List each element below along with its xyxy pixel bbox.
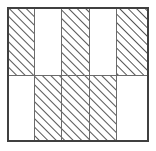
hatched-cell-r2c4 [89, 75, 116, 142]
hatched-cell-r2c3 [62, 75, 89, 142]
hatched-cell-r1c1 [7, 7, 34, 75]
grid-diagram-svg [0, 0, 156, 151]
hatched-cell-r2c2 [34, 75, 61, 142]
hatched-cell-r1c5 [117, 7, 149, 75]
hatched-grid-figure [0, 0, 156, 151]
hatched-cell-r1c3 [62, 7, 89, 75]
